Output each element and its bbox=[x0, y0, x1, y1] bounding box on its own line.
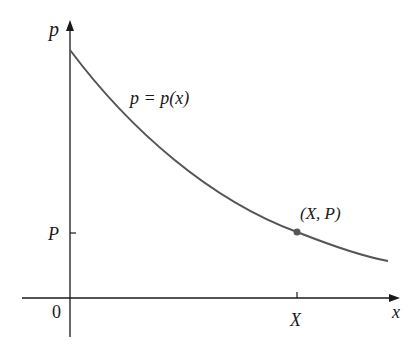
y-tick-label: P bbox=[47, 224, 59, 244]
demand-curve-figure: p x 0 p = p(x) (X, P) P X bbox=[0, 0, 417, 360]
x-axis-arrow-icon bbox=[389, 294, 400, 302]
x-tick-label: X bbox=[289, 310, 302, 330]
y-axis-arrow-icon bbox=[66, 20, 74, 31]
demand-curve bbox=[70, 50, 388, 261]
origin-label: 0 bbox=[52, 302, 61, 322]
y-axis-label: p bbox=[47, 18, 59, 41]
x-axis-label: x bbox=[391, 302, 400, 322]
point-XP bbox=[294, 229, 301, 236]
curve-label: p = p(x) bbox=[128, 88, 189, 109]
point-label: (X, P) bbox=[300, 204, 341, 223]
plot-canvas: p x 0 p = p(x) (X, P) P X bbox=[0, 0, 417, 360]
